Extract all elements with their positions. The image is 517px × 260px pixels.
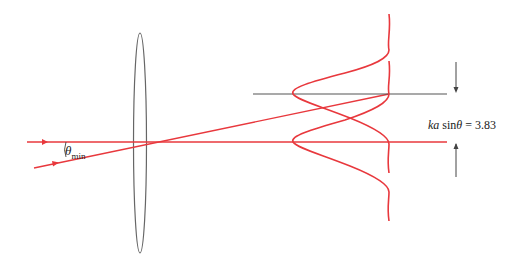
formula-ka: ka [428,118,439,132]
theta-min-label: θmin [65,143,85,161]
rayleigh-formula-label: ka sinθ = 3.83 [428,118,496,133]
formula-value: = 3.83 [462,118,496,132]
arrow-up-icon [454,143,459,149]
off-axis-ray-arrow-icon [52,161,59,167]
off-axis-ray [34,94,389,168]
on-axis-ray-arrow-icon [42,139,48,145]
arrow-down-icon [454,87,459,93]
lower-diffraction-pattern [293,61,390,221]
formula-sin: sin [439,118,456,132]
lens [134,33,147,253]
theta-subscript: min [71,151,85,161]
